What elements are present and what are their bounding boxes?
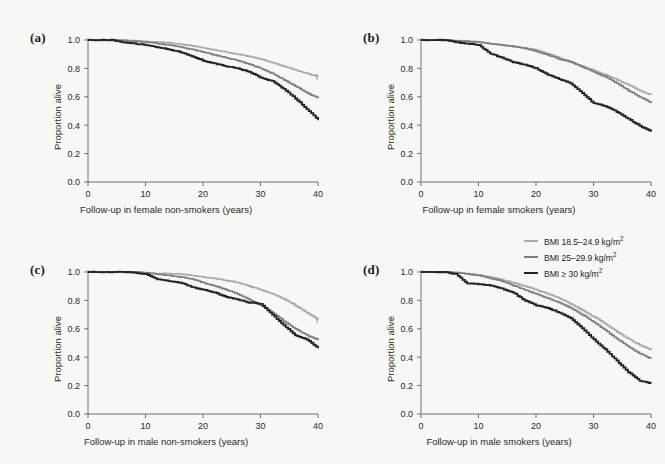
legend-swatch-icon [524, 240, 538, 242]
y-tick-label: 0.0 [400, 177, 413, 187]
x-tick-label: 30 [588, 189, 598, 199]
plot-area-a: 0.00.20.40.60.81.0010203040Proportion al… [0, 0, 332, 232]
x-tick-label: 10 [140, 189, 150, 199]
y-tick-label: 0.8 [400, 296, 413, 306]
y-tick-label: 0.2 [67, 381, 80, 391]
x-tick-label: 10 [473, 421, 483, 431]
y-tick-label: 1.0 [67, 267, 80, 277]
x-axis-label: Follow-up in male smokers (years) [333, 436, 665, 447]
y-axis-label: Proportion alive [52, 46, 63, 188]
x-axis-label: Follow-up in female non-smokers (years) [0, 204, 332, 215]
legend-item-normal-weight: BMI 18.5–24.9 kg/m2 [524, 234, 665, 248]
y-tick-label: 0.0 [67, 177, 80, 187]
x-tick-label: 30 [588, 421, 598, 431]
y-tick-label: 1.0 [400, 35, 413, 45]
panel-c: (c) 0.00.20.40.60.81.0010203040Proportio… [0, 232, 332, 464]
y-tick-label: 0.0 [400, 409, 413, 419]
legend-item-obese: BMI ≥ 30 kg/m2 [524, 266, 665, 280]
legend-swatch-icon [524, 256, 538, 258]
y-tick-label: 0.0 [67, 409, 80, 419]
legend-item-overweight: BMI 25–29.9 kg/m2 [524, 250, 665, 264]
y-tick-label: 0.6 [67, 92, 80, 102]
y-tick-label: 1.0 [67, 35, 80, 45]
y-axis-label: Proportion alive [385, 46, 396, 188]
y-tick-label: 0.4 [400, 121, 413, 131]
y-tick-label: 0.4 [67, 121, 80, 131]
panel-a: (a) 0.00.20.40.60.81.0010203040Proportio… [0, 0, 332, 232]
chart-svg: 0.00.20.40.60.81.0010203040 [0, 232, 332, 464]
panel-b: (b) 0.00.20.40.60.81.0010203040Proportio… [333, 0, 665, 232]
series-line [88, 272, 318, 321]
y-axis-label: Proportion alive [52, 278, 63, 420]
x-tick-label: 40 [313, 421, 323, 431]
legend-label: BMI 18.5–24.9 kg/m2 [544, 235, 624, 247]
x-tick-label: 10 [140, 421, 150, 431]
legend-label: BMI 25–29.9 kg/m2 [544, 251, 616, 263]
plot-area-b: 0.00.20.40.60.81.0010203040Proportion al… [333, 0, 665, 232]
x-tick-label: 20 [198, 421, 208, 431]
legend-swatch-icon [524, 272, 538, 274]
plot-area-c: 0.00.20.40.60.81.0010203040Proportion al… [0, 232, 332, 464]
x-tick-label: 10 [473, 189, 483, 199]
chart-svg: 0.00.20.40.60.81.0010203040 [333, 0, 665, 232]
y-tick-label: 0.2 [400, 149, 413, 159]
x-tick-label: 20 [198, 189, 208, 199]
series-line [421, 40, 651, 132]
x-axis-label: Follow-up in male non-smokers (years) [0, 436, 332, 447]
y-tick-label: 0.8 [67, 64, 80, 74]
x-tick-label: 40 [313, 189, 323, 199]
y-tick-label: 0.4 [67, 353, 80, 363]
series-line [88, 272, 318, 341]
y-tick-label: 0.2 [67, 149, 80, 159]
x-tick-label: 0 [418, 421, 423, 431]
x-tick-label: 0 [85, 189, 90, 199]
series-line [421, 272, 651, 359]
y-tick-label: 0.6 [400, 92, 413, 102]
x-tick-label: 40 [646, 421, 656, 431]
x-tick-label: 20 [531, 189, 541, 199]
y-tick-label: 0.6 [67, 324, 80, 334]
y-tick-label: 0.6 [400, 324, 413, 334]
x-tick-label: 30 [255, 189, 265, 199]
y-axis-label: Proportion alive [385, 278, 396, 420]
series-line [88, 40, 318, 77]
y-tick-label: 0.8 [400, 64, 413, 74]
x-tick-label: 20 [531, 421, 541, 431]
y-tick-label: 0.2 [400, 381, 413, 391]
chart-svg: 0.00.20.40.60.81.0010203040 [0, 0, 332, 232]
x-axis-label: Follow-up in female smokers (years) [333, 204, 665, 215]
x-tick-label: 30 [255, 421, 265, 431]
figure-container: (a) 0.00.20.40.60.81.0010203040Proportio… [0, 0, 665, 464]
legend-label: BMI ≥ 30 kg/m2 [544, 267, 602, 279]
x-tick-label: 0 [418, 189, 423, 199]
y-tick-label: 0.4 [400, 353, 413, 363]
x-tick-label: 0 [85, 421, 90, 431]
y-tick-label: 0.8 [67, 296, 80, 306]
legend: BMI 18.5–24.9 kg/m2BMI 25–29.9 kg/m2BMI … [524, 234, 665, 282]
x-tick-label: 40 [646, 189, 656, 199]
y-tick-label: 1.0 [400, 267, 413, 277]
